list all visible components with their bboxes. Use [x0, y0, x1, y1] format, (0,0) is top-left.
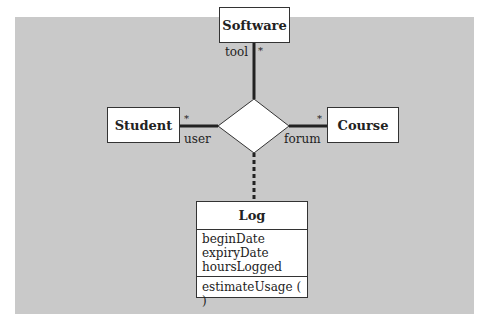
log-class-name: Log: [197, 202, 307, 230]
log-operation: estimateUsage ( ): [202, 280, 302, 308]
multiplicity-user: *: [184, 114, 189, 124]
class-software-name: Software: [222, 18, 286, 33]
log-attribute: hoursLogged: [202, 260, 302, 274]
log-operations: estimateUsage ( ): [197, 277, 307, 311]
association-class-log: Log beginDate expiryDate hoursLogged est…: [196, 201, 308, 298]
log-attributes: beginDate expiryDate hoursLogged: [197, 230, 307, 277]
class-student-name: Student: [115, 118, 173, 133]
role-user: user: [184, 133, 211, 145]
association-diamond: [218, 99, 289, 153]
log-attribute: beginDate: [202, 232, 302, 246]
class-software: Software: [219, 7, 290, 43]
class-student: Student: [107, 107, 180, 143]
multiplicity-forum: *: [317, 114, 322, 124]
role-forum: forum: [284, 133, 321, 145]
log-attribute: expiryDate: [202, 246, 302, 260]
multiplicity-tool: *: [258, 46, 263, 56]
role-tool: tool: [225, 46, 248, 58]
class-course: Course: [327, 107, 399, 143]
class-course-name: Course: [338, 118, 389, 133]
